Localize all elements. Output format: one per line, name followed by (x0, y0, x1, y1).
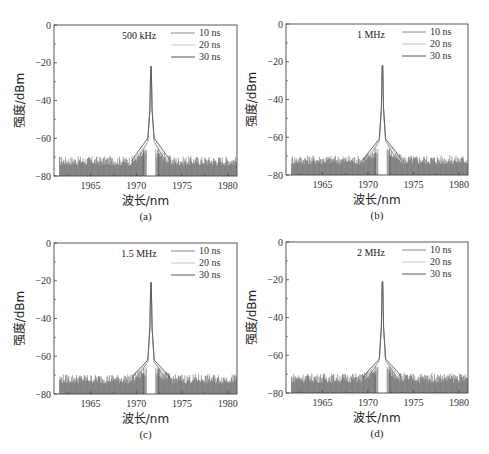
y-tick-label: 0 (46, 238, 51, 249)
y-tick-label: −60 (267, 350, 283, 361)
x-tick-label: 1970 (126, 180, 146, 191)
x-tick-label: 1975 (403, 179, 423, 190)
x-tick-label: 1975 (172, 398, 192, 409)
series-line-10ns (136, 283, 165, 379)
legend-label: 20 ns (199, 39, 221, 50)
series-line-30ns (363, 66, 401, 160)
noise-floor (59, 150, 236, 176)
series-line-10ns (136, 67, 165, 161)
x-tick-label: 1965 (81, 180, 101, 191)
chart-b: 0−20−40−60−801965197019751980波长/nm强度/dBm… (245, 0, 489, 227)
series-line-20ns (366, 66, 400, 160)
x-tick-label: 1980 (449, 179, 469, 190)
chart-c: 0−20−40−60−801965197019751980波长/nm强度/dBm… (0, 227, 244, 454)
chart-d: 0−20−40−60−801965197019751980波长/nm强度/dBm… (245, 227, 489, 454)
legend-label: 20 ns (430, 38, 452, 49)
legend: 10 ns20 ns30 ns (171, 27, 221, 62)
panel-c: 0−20−40−60−801965197019751980波长/nm强度/dBm… (0, 227, 244, 454)
y-tick-label: −80 (267, 388, 283, 399)
plot-area (291, 282, 467, 393)
panel-caption: (a) (139, 210, 152, 223)
rep-rate-annotation: 1 MHz (357, 29, 386, 40)
x-axis-title: 波长/nm (122, 194, 169, 208)
y-tick-label: −20 (267, 56, 283, 67)
x-axis-title: 波长/nm (122, 412, 169, 426)
panel-a: 0−20−40−60−801965197019751980波长/nm强度/dBm… (0, 0, 244, 227)
legend: 10 ns20 ns30 ns (402, 26, 452, 61)
y-tick-label: −60 (35, 351, 51, 362)
series-line-30ns (363, 282, 401, 378)
legend-label: 20 ns (430, 256, 452, 267)
noise-floor (291, 367, 467, 393)
x-tick-label: 1965 (312, 397, 332, 408)
y-tick-label: −80 (267, 170, 283, 181)
y-tick-label: −60 (267, 132, 283, 143)
y-tick-label: −80 (35, 389, 51, 400)
y-tick-label: 0 (278, 237, 283, 248)
legend-label: 20 ns (199, 257, 221, 268)
x-axis-title: 波长/nm (353, 193, 400, 207)
x-tick-label: 1975 (403, 397, 423, 408)
y-tick-label: 0 (278, 19, 283, 30)
y-axis-title: 强度/dBm (12, 73, 27, 129)
y-tick-label: −40 (35, 313, 51, 324)
panel-b: 0−20−40−60−801965197019751980波长/nm强度/dBm… (245, 0, 489, 227)
panel-d: 0−20−40−60−801965197019751980波长/nm强度/dBm… (245, 227, 489, 454)
series-line-20ns (134, 67, 168, 161)
series-line-30ns (132, 67, 170, 161)
panel-caption: (d) (371, 427, 384, 440)
plot-area (59, 67, 236, 176)
series-line-10ns (368, 282, 397, 378)
legend: 10 ns20 ns30 ns (171, 245, 221, 280)
x-tick-label: 1970 (358, 179, 378, 190)
legend-label: 10 ns (199, 245, 221, 256)
x-tick-label: 1965 (312, 179, 332, 190)
x-tick-label: 1980 (218, 398, 238, 409)
panel-caption: (c) (139, 428, 152, 441)
y-tick-label: −60 (35, 133, 51, 144)
x-axis-title: 波长/nm (353, 411, 400, 425)
plot-area (291, 66, 467, 175)
x-tick-label: 1965 (81, 398, 101, 409)
rep-rate-annotation: 1.5 MHz (121, 248, 157, 259)
legend: 10 ns20 ns30 ns (402, 244, 452, 279)
series-line-30ns (132, 283, 170, 379)
legend-label: 30 ns (430, 268, 452, 279)
panel-caption: (b) (371, 209, 384, 222)
y-tick-label: −40 (267, 312, 283, 323)
chart-a: 0−20−40−60−801965197019751980波长/nm强度/dBm… (0, 0, 244, 227)
legend-label: 30 ns (430, 50, 452, 61)
y-tick-label: −20 (35, 57, 51, 68)
rep-rate-annotation: 500 kHz (122, 30, 157, 41)
series-line-20ns (366, 282, 400, 378)
y-tick-label: −20 (35, 275, 51, 286)
legend-label: 30 ns (199, 269, 221, 280)
y-axis-title: 强度/dBm (12, 291, 27, 347)
plot-area (59, 283, 236, 394)
y-tick-label: −40 (267, 94, 283, 105)
legend-label: 30 ns (199, 51, 221, 62)
series-line-10ns (368, 66, 397, 160)
legend-label: 10 ns (430, 26, 452, 37)
noise-floor (59, 368, 236, 394)
y-axis-title: 强度/dBm (244, 72, 259, 128)
y-tick-label: −20 (267, 274, 283, 285)
series-line-20ns (134, 283, 168, 379)
legend-label: 10 ns (199, 27, 221, 38)
x-tick-label: 1970 (126, 398, 146, 409)
rep-rate-annotation: 2 MHz (357, 247, 386, 258)
x-tick-label: 1980 (218, 180, 238, 191)
y-tick-label: −40 (35, 95, 51, 106)
y-tick-label: −80 (35, 171, 51, 182)
noise-floor (291, 149, 467, 175)
x-tick-label: 1975 (172, 180, 192, 191)
x-tick-label: 1980 (449, 397, 469, 408)
y-axis-title: 强度/dBm (244, 290, 259, 346)
x-tick-label: 1970 (358, 397, 378, 408)
legend-label: 10 ns (430, 244, 452, 255)
y-tick-label: 0 (46, 20, 51, 31)
